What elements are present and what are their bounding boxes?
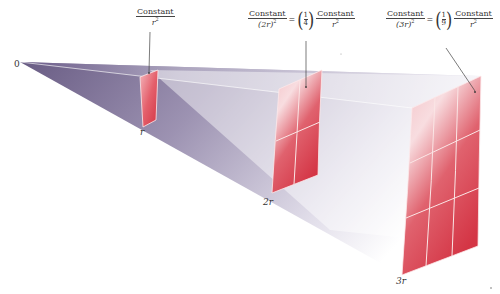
surface-2r bbox=[272, 70, 322, 193]
fraction-rhs: Constant r2 bbox=[316, 10, 355, 30]
position-label-r: r bbox=[140, 128, 144, 137]
position-label-2r: 2r bbox=[263, 198, 273, 207]
fraction-lhs: Constant (2r)2 bbox=[248, 10, 287, 30]
fraction-lhs: Constant (3r)2 bbox=[386, 10, 425, 30]
annotation-3r: Constant (3r)2 = ( 1 9 ) Constant r2 bbox=[386, 10, 493, 30]
annotation-2r: Constant (2r)2 = ( 1 4 ) Constant r2 bbox=[248, 10, 355, 30]
surface-r bbox=[140, 70, 158, 127]
fraction-constant-over-r2: Constant r2 bbox=[136, 8, 175, 28]
position-label-3r: 3r bbox=[396, 277, 406, 286]
annotation-r: Constant r2 bbox=[136, 8, 175, 28]
inverse-square-diagram bbox=[0, 0, 500, 294]
origin-label: 0 bbox=[14, 60, 20, 69]
fraction-rhs: Constant r2 bbox=[454, 10, 493, 30]
